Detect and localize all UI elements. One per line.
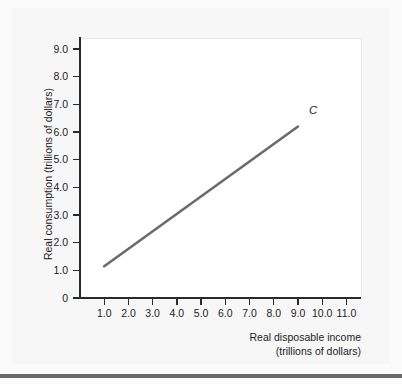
bottom-divider-bar — [0, 374, 402, 378]
consumption-function-figure: 01.02.03.04.05.06.07.08.09.0 1.02.03.04.… — [0, 0, 402, 384]
curve-layer — [0, 0, 402, 384]
consumption-line — [104, 127, 298, 267]
curve-label-c: C — [309, 104, 317, 116]
